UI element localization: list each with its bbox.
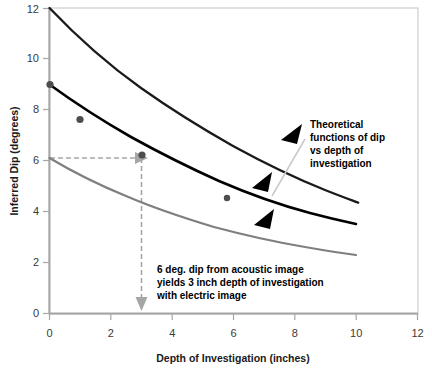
theoretical-label-line-2: functions of dip <box>310 132 385 143</box>
y-axis-tick-labels: 0 2 4 6 8 10 12 <box>27 3 39 319</box>
dip-label-line-3: with electric image <box>156 290 247 301</box>
chart-figure: 0 2 4 6 8 10 12 0 2 4 6 8 10 12 <box>0 0 432 382</box>
data-point <box>224 195 230 201</box>
data-point <box>138 151 145 158</box>
caption-fragment <box>8 372 10 379</box>
x-tick-label-4: 4 <box>169 327 175 339</box>
data-point <box>46 81 53 88</box>
y-tick-label-10: 10 <box>27 52 39 64</box>
y-axis-title: Inferred Dip (degrees) <box>8 106 20 215</box>
y-tick-label-0: 0 <box>33 307 39 319</box>
dip-label-line-1: 6 deg. dip from acoustic image <box>157 264 304 275</box>
y-tick-label-6: 6 <box>33 154 39 166</box>
theoretical-label-line-4: investigation <box>310 158 372 169</box>
x-axis-title: Depth of Investigation (inches) <box>156 352 309 364</box>
y-tick-label-8: 8 <box>33 103 39 115</box>
data-point <box>76 116 83 123</box>
x-tick-label-0: 0 <box>46 327 52 339</box>
y-axis-ticks <box>43 9 49 314</box>
dip-vs-depth-chart: 0 2 4 6 8 10 12 0 2 4 6 8 10 12 <box>0 0 432 382</box>
x-tick-label-12: 12 <box>411 327 423 339</box>
y-tick-label-2: 2 <box>33 256 39 268</box>
x-tick-label-6: 6 <box>230 327 236 339</box>
x-tick-label-2: 2 <box>108 327 114 339</box>
x-axis-ticks <box>50 314 418 320</box>
x-axis-tick-labels: 0 2 4 6 8 10 12 <box>46 327 423 339</box>
x-tick-label-8: 8 <box>292 327 298 339</box>
dip-label-line-2: yields 3 inch depth of investigation <box>157 277 324 288</box>
x-tick-label-10: 10 <box>350 327 362 339</box>
theoretical-label-line-1: Theoretical <box>310 119 364 130</box>
theoretical-label-line-3: vs depth of <box>310 145 364 156</box>
y-tick-label-4: 4 <box>33 205 39 217</box>
y-tick-label-12: 12 <box>27 3 39 15</box>
caption-strip <box>0 372 432 382</box>
